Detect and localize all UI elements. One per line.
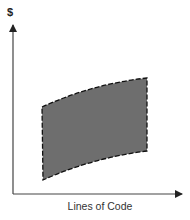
- x-axis-label: Lines of Code: [0, 200, 190, 212]
- cost-vs-lines-chart: [0, 0, 190, 220]
- y-axis-label: $: [7, 6, 13, 18]
- cost-range-band: [42, 78, 147, 180]
